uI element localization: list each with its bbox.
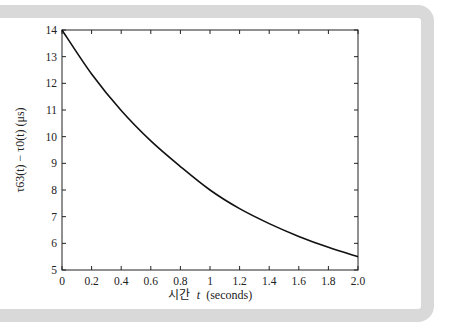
x-tick-label: 1.6 [292, 275, 307, 287]
x-tick-label: 1.4 [262, 275, 277, 287]
y-tick-labels: 567891011121314 [46, 24, 58, 276]
x-tick-label: 1.2 [232, 275, 247, 287]
y-tick-label: 6 [51, 237, 57, 249]
x-axis-label: 시간 t (seconds) [168, 288, 252, 302]
y-tick-label: 8 [51, 184, 57, 196]
x-tick-label: 1.8 [321, 275, 336, 287]
y-tick-label: 7 [51, 211, 57, 223]
x-tick-label: 0.8 [173, 275, 188, 287]
y-tick-label: 9 [51, 157, 57, 169]
plot-area [62, 30, 358, 270]
line-chart: 00.20.40.60.811.21.41.61.82.0 5678910111… [0, 0, 452, 332]
y-tick-label: 12 [46, 77, 58, 89]
y-tick-label: 11 [46, 104, 57, 116]
axis-ticks [62, 30, 358, 270]
y-tick-label: 14 [46, 24, 58, 36]
x-tick-label: 0.4 [114, 275, 129, 287]
x-tick-label: 0.2 [84, 275, 99, 287]
y-tick-label: 10 [46, 131, 58, 143]
x-tick-labels: 00.20.40.60.811.21.41.61.82.0 [59, 275, 365, 287]
x-tick-label: 1 [207, 275, 213, 287]
data-line [62, 30, 358, 257]
x-tick-label: 0 [59, 275, 65, 287]
x-tick-label: 2.0 [351, 275, 366, 287]
x-tick-label: 0.6 [144, 275, 159, 287]
y-axis-label: τ63(t) − τ0(t) (μs) [13, 107, 27, 192]
y-tick-label: 13 [46, 51, 58, 63]
y-tick-label: 5 [51, 264, 57, 276]
